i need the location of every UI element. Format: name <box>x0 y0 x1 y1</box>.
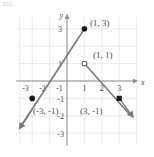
figure-container: 101. <box>0 0 154 157</box>
point-label-neg3-neg1: (-3, -1) <box>33 106 59 116</box>
x-tick-label-neg3: -3 <box>22 84 29 93</box>
point-label-1-1: (1, 1) <box>93 50 113 60</box>
open-point-marker-1-1 <box>82 61 87 66</box>
y-tick-label-neg1: -1 <box>57 95 64 104</box>
x-tick-label-1: 1 <box>82 84 86 93</box>
x-tick-label-3: 3 <box>117 84 121 93</box>
point-label-3-neg1: (3, -1) <box>80 106 103 116</box>
closed-point-marker-1-3 <box>82 26 88 32</box>
x-tick-label-neg1: -1 <box>56 84 63 93</box>
point-label-1-3: (1, 3) <box>90 18 110 28</box>
coordinate-graph: x y -3 -2 -1 1 2 3 3 1 -1 -2 -3 (1, 3) <box>0 0 154 157</box>
closed-point-marker-neg3-neg1 <box>29 96 35 102</box>
y-tick-label-3: 3 <box>58 25 62 34</box>
x-axis-label: x <box>140 78 145 87</box>
y-axis-label: y <box>59 11 64 20</box>
y-tick-label-neg3: -3 <box>57 130 64 139</box>
closed-point-marker-3-neg1 <box>117 96 122 101</box>
